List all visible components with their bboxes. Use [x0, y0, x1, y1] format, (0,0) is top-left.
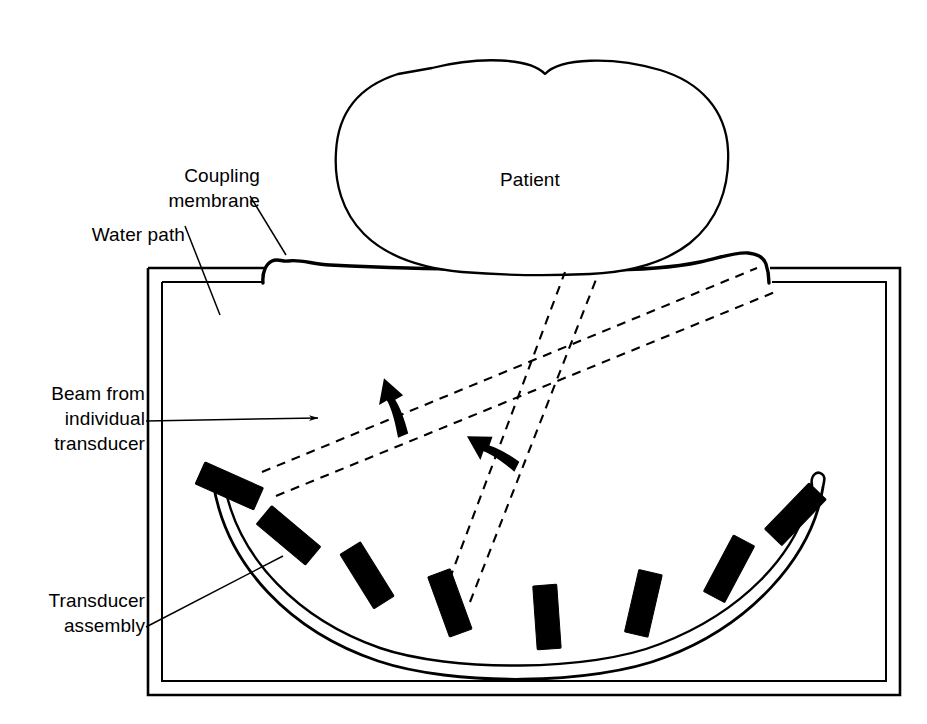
water-path-leader	[185, 226, 220, 315]
sweep-arrow-shaft-head	[372, 374, 416, 440]
transducer-assembly-leader	[146, 556, 283, 627]
tank-inner-wall	[162, 282, 886, 681]
label-transducer-assembly: Transducer assembly	[0, 588, 145, 638]
transducer-head	[340, 542, 394, 609]
label-patient: Patient	[460, 167, 600, 192]
figure-root: Coupling membrane Water path Beam from i…	[0, 0, 927, 724]
transducer-head	[624, 570, 662, 638]
ultrasound-beams	[262, 268, 775, 602]
transducer-head	[533, 584, 561, 650]
sweep-arrow-upper-left	[372, 374, 416, 440]
label-beam-from-individual-transducer: Beam from individual transducer	[0, 381, 145, 456]
beam-leader	[146, 418, 318, 421]
rail-right-end-cap	[812, 473, 825, 487]
label-water-path: Water path	[50, 222, 185, 247]
sweep-arrow-lower-right	[460, 425, 524, 478]
sweep-arrows	[372, 374, 524, 478]
beam-1-upper-edge	[262, 268, 757, 472]
beam-1-lower-edge	[276, 292, 775, 496]
beam-2-left-edge	[444, 272, 565, 594]
label-coupling-membrane: Coupling membrane	[120, 163, 260, 213]
tank-outer-wall	[148, 268, 900, 695]
sweep-arrow-shaft-head	[460, 425, 524, 478]
transducer-head	[256, 506, 320, 566]
transducer-element-5[interactable]	[533, 584, 561, 650]
transducer-element-3[interactable]	[340, 542, 394, 609]
water-tank	[148, 268, 900, 695]
transducer-element-6[interactable]	[624, 570, 662, 638]
transducer-element-2[interactable]	[256, 506, 320, 566]
